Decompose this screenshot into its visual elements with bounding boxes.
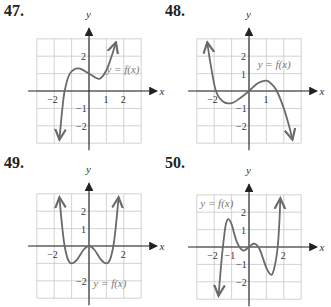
graph-48: xy−2121−1−2y = f(x)	[188, 8, 324, 150]
x-tick-label: 1	[263, 94, 268, 105]
x-axis-label: x	[158, 85, 164, 97]
x-tick-label: 2	[121, 249, 126, 260]
x-tick-label: −1	[225, 250, 236, 261]
x-axis-label: x	[318, 241, 324, 253]
function-label: y = f(x)	[92, 277, 126, 290]
function-label: y = f(x)	[105, 63, 139, 76]
function-label: y = f(x)	[257, 58, 291, 71]
y-tick-label: −1	[236, 259, 247, 270]
y-tick-label: 1	[241, 225, 246, 236]
y-tick-label: −2	[76, 276, 87, 287]
y-tick-label: −1	[236, 103, 247, 114]
x-tick-label: −2	[47, 94, 58, 105]
x-tick-label: −2	[207, 94, 218, 105]
y-tick-label: −2	[236, 121, 247, 132]
y-tick-label: 2	[241, 207, 246, 218]
function-label: y = f(x)	[199, 197, 233, 210]
y-tick-label: 2	[81, 51, 86, 62]
y-tick-label: −2	[76, 121, 87, 132]
x-tick-label: −2	[207, 250, 218, 261]
x-tick-label: 1	[103, 94, 108, 105]
graph-49: xy−2221−2y = f(x)	[28, 163, 164, 305]
y-tick-label: 2	[241, 51, 246, 62]
x-axis-label: x	[158, 240, 164, 252]
y-tick-label: −2	[236, 277, 247, 288]
graph-47: xy−2122−1−2y = f(x)	[28, 8, 164, 150]
y-axis-label: y	[85, 8, 91, 20]
graph-50: xy−2−1221−1−2y = f(x)	[188, 164, 324, 306]
y-tick-label: 1	[81, 224, 86, 235]
x-axis-label: x	[318, 85, 324, 97]
y-axis-label: y	[245, 164, 251, 176]
x-tick-label: 2	[281, 250, 286, 261]
y-tick-label: −1	[76, 103, 87, 114]
y-tick-label: 2	[81, 206, 86, 217]
x-tick-label: −2	[47, 249, 58, 260]
x-tick-label: 2	[121, 94, 126, 105]
y-tick-label: 1	[241, 69, 246, 80]
y-axis-label: y	[245, 8, 251, 20]
y-axis-label: y	[85, 163, 91, 175]
graphs-canvas: xy−2122−1−2y = f(x)xy−2121−1−2y = f(x)xy…	[0, 0, 331, 307]
